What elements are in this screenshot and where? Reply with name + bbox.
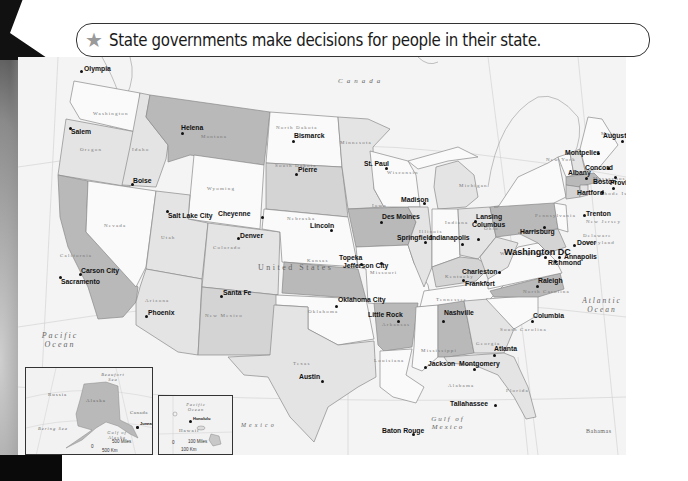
capital-st-paul: St. Paul (364, 161, 389, 168)
inset-capital-honolulu: Honolulu (193, 417, 210, 421)
label-gulf-of-mexico: Gulf of Mexico (428, 415, 468, 431)
capital-denver: Denver (240, 233, 263, 240)
star-icon: ★ (85, 30, 103, 50)
label-pacific-ocean: Pacific Ocean (40, 331, 80, 349)
capital-columbia: Columbia (533, 313, 564, 320)
state-kansas: Kansas (307, 258, 329, 263)
state-north-dakota: North Dakota (276, 125, 318, 130)
capital-baton-rouge: Baton Rouge (382, 428, 424, 435)
capital-jackson: Jackson (428, 361, 455, 368)
capital-tallahassee: Tallahassee (450, 401, 488, 408)
capital-harrisburg: Harrisburg (520, 229, 555, 236)
state-pennsylvania: Pennsylvania (535, 213, 576, 218)
capital-helena: Helena (181, 125, 203, 132)
label-mexico: Mexico (241, 422, 277, 429)
inset-label-alaska: Alaska (86, 398, 106, 404)
capital-little-rock: Little Rock (368, 312, 403, 319)
state-colorado: Colorado (213, 245, 241, 250)
state-south-carolina: South Carolina (500, 327, 547, 332)
state-michigan: Michigan (459, 183, 488, 188)
capital-bismarck: Bismarck (294, 133, 325, 140)
state-indiana: Indiana (445, 220, 468, 225)
capital-concord: Concord (585, 165, 613, 172)
capital-phoenix: Phoenix (148, 310, 174, 317)
capital-oklahoma-city: Oklahoma City (338, 297, 386, 304)
capital-salt-lake-city: Salt Lake City (168, 213, 213, 220)
state-north-carolina: North Carolina (523, 289, 570, 294)
state-new-york: New York (546, 157, 576, 162)
inset-label-russia: Russia (48, 392, 67, 398)
capital-dover: Dover (577, 240, 596, 247)
capital-annapolis: Annapolis (564, 254, 597, 261)
inset-label-beaufort-sea: Beaufort Sea (98, 372, 128, 382)
capital-hartford: Hartford (577, 190, 604, 197)
state-louisiana: Louisiana (374, 358, 405, 363)
capital-charleston: Charleston (462, 269, 498, 276)
state-minnesota: Minnesota (340, 140, 372, 145)
state-california: California (60, 253, 92, 258)
capital-santa-fe: Santa Fe (223, 290, 251, 297)
state-washington: Washington (93, 111, 129, 116)
capital-augusta: Augusta (603, 133, 626, 140)
capital-salem: Salem (71, 129, 91, 136)
capital-columbus-oh: Columbus (472, 222, 505, 229)
alaska-inset: Russia Alaska Canada Beaufort Sea Bering… (25, 367, 153, 455)
state-wyoming: Wyoming (207, 186, 235, 191)
state-montana: Montana (201, 134, 227, 139)
hawaii-inset: Pacific Ocean Honolulu Hawaii 0 100 Mile… (158, 395, 233, 455)
state-iowa: Iowa (372, 203, 387, 208)
banner-callout: ★ State governments make decisions for p… (76, 23, 650, 57)
state-alabama: Alabama (448, 383, 474, 388)
label-canada: Canada (338, 77, 384, 85)
label-bahamas: Bahamas (586, 428, 612, 435)
state-florida: Florida (506, 388, 529, 393)
state-arizona: Arizona (145, 298, 170, 303)
inset-label-bering-sea: Bering Sea (38, 426, 68, 431)
state-mississippi: Mississippi (421, 348, 457, 353)
capital-carson-city: Carson City (81, 268, 119, 275)
state-tennessee: Tennessee (436, 297, 467, 302)
capital-indianapolis: Indianapolis (430, 235, 470, 242)
state-nevada: Nevada (104, 223, 126, 228)
state-new-mexico: New Mexico (205, 313, 243, 318)
scale-km: 500 Km (102, 448, 118, 453)
inset-capital-juneau: Juneau (140, 422, 153, 426)
state-delaware: Delaware (583, 233, 612, 238)
state-missouri: Missouri (370, 270, 397, 275)
background-photo-bottom (0, 455, 62, 481)
capital-lansing: Lansing (476, 214, 502, 221)
scale-miles: 100 Miles (188, 439, 207, 444)
state-new-jersey: New Jersey (586, 219, 621, 224)
state-oregon: Oregon (80, 147, 102, 152)
capital-pierre: Pierre (298, 167, 317, 174)
inset-label-pacific-ocean: Pacific Ocean (181, 402, 211, 412)
scale-zero: 0 (91, 444, 94, 449)
banner-text: State governments make decisions for peo… (109, 30, 541, 50)
capital-madison: Madison (401, 197, 429, 204)
state-texas: Texas (293, 361, 311, 366)
capital-nashville: Nashville (444, 310, 474, 317)
inset-label-hawaii: Hawaii (179, 428, 199, 434)
background-photo-top (0, 0, 60, 60)
label-atlantic-ocean: Atlantic Ocean (578, 297, 626, 314)
capital-trenton: Trenton (586, 211, 611, 218)
capital-boise: Boise (133, 178, 152, 185)
capital-richmond: Richmond (548, 260, 581, 267)
capital-olympia: Olympia (84, 66, 111, 73)
scale-km: 100 Km (181, 447, 197, 452)
capital-des-moines: Des Moines (382, 214, 420, 221)
capital-jefferson-city: Jefferson City (343, 263, 388, 270)
capital-raleigh: Raleigh (538, 278, 563, 285)
state-utah: Utah (161, 235, 176, 240)
scale-zero: 0 (172, 440, 175, 445)
capital-springfield: Springfield (397, 235, 433, 242)
state-idaho: Idaho (132, 147, 149, 152)
capital-sacramento: Sacramento (61, 279, 100, 286)
inset-label-canada: Canada (130, 410, 148, 416)
capital-topeka: Topeka (339, 255, 362, 262)
state-nebraska: Nebraska (287, 216, 315, 221)
us-map: Canada United States Mexico Pacific Ocea… (18, 57, 626, 455)
capital-montpelier: Montpelier (565, 150, 599, 157)
capital-austin: Austin (299, 374, 320, 381)
state-arkansas: Arkansas (382, 322, 410, 327)
